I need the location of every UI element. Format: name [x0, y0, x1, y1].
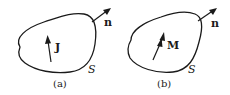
panel-b: n M S (b): [115, 0, 230, 95]
panel-caption: (a): [53, 79, 67, 89]
surface-label: S: [188, 64, 196, 75]
panel-a: n J S (a): [0, 0, 115, 95]
j-arrow-shaft: [48, 41, 51, 62]
vector-label-m: M: [167, 40, 179, 51]
m-arrowhead-upper: [160, 32, 166, 41]
normal-label: n: [104, 17, 112, 28]
normal-arrowhead: [103, 8, 111, 15]
normal-label: n: [211, 18, 219, 29]
panel-caption: (b): [157, 79, 171, 89]
j-arrowhead: [45, 35, 51, 44]
surface-label: S: [88, 64, 96, 75]
vector-label-j: J: [55, 42, 60, 53]
normal-arrowhead: [209, 8, 217, 15]
